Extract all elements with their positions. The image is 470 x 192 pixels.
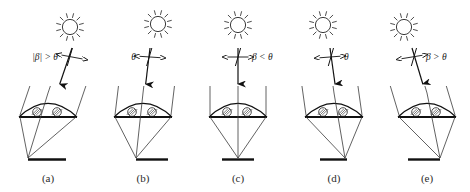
refracted-ray [20, 117, 28, 158]
sun-ray [144, 20, 149, 21]
refracted-ray [238, 117, 266, 158]
sun-ray [224, 27, 229, 28]
lens-e [398, 103, 456, 117]
sun-ray [66, 13, 67, 18]
sun-ray [234, 11, 235, 16]
refracted-ray [440, 117, 455, 158]
sun-ray [319, 11, 320, 16]
sun-ray [56, 29, 61, 30]
sun-ray [240, 34, 241, 39]
panel-caption-d: (d) [328, 172, 341, 185]
sun-ray [72, 13, 73, 18]
sun-ray [319, 34, 320, 39]
sun-ray [406, 13, 407, 18]
sun-ray [313, 15, 316, 18]
sun-icon-a [56, 13, 83, 40]
sun-ray [56, 23, 61, 24]
lens-b [114, 103, 172, 117]
sun-ray [390, 23, 395, 24]
refracted-ray [136, 117, 171, 158]
sun-ray [413, 29, 418, 30]
sun-icon-e [390, 13, 417, 40]
incident-beam-a: |β| > θ [32, 48, 82, 84]
panel-c: β < θ(c) [209, 11, 273, 185]
sun-ray [325, 34, 326, 39]
panel-caption-a: (a) [42, 172, 55, 185]
refracted-ray [28, 93, 48, 158]
refracted-ray [136, 93, 143, 158]
sun-ray [240, 11, 241, 16]
sun-ray [77, 17, 80, 20]
sun-disc [396, 19, 411, 34]
sun-ray [330, 32, 333, 35]
sun-ray [394, 17, 397, 20]
sun-ray [144, 26, 149, 27]
sun-ray [330, 15, 333, 18]
incident-beam-d: θ [320, 48, 350, 84]
sun-ray [224, 21, 229, 22]
lens-upper-arc [305, 103, 363, 117]
sun-ray [165, 14, 168, 17]
panel-group: |β| > θ(a)θ(b)β < θ(c)θ(d)β > θ(e) [19, 10, 456, 185]
incoming-ray [171, 86, 174, 115]
rays-a [20, 86, 86, 160]
rays-b [115, 86, 174, 160]
sun-ray [313, 32, 316, 35]
sun-ray [154, 10, 155, 15]
sun-ray [160, 33, 161, 38]
panel-e: β > θ(e) [390, 13, 456, 185]
incoming-ray [333, 86, 334, 93]
incoming-ray [358, 86, 362, 115]
sun-icon-c [224, 11, 251, 38]
lens-upper-arc [114, 103, 172, 117]
sun-ray [148, 31, 151, 34]
refracted-ray [115, 117, 136, 158]
lens-upper-arc [19, 103, 77, 117]
panel-a: |β| > θ(a) [19, 13, 86, 185]
lens-a [19, 103, 77, 117]
sun-ray [413, 23, 418, 24]
angle-tick [402, 55, 423, 58]
sun-ray [400, 13, 401, 18]
sun-ray [245, 32, 248, 35]
sun-disc [62, 19, 77, 34]
sun-ray [167, 20, 172, 21]
lens-d [305, 103, 363, 117]
angle-label-d: θ [344, 52, 349, 62]
beam-arrow [330, 48, 335, 84]
sun-ray [234, 34, 235, 39]
incoming-ray [20, 86, 30, 115]
sun-ray [332, 21, 337, 22]
sun-ray [60, 17, 63, 20]
sun-ray [406, 36, 407, 41]
incoming-ray [76, 86, 86, 115]
incident-beam-b: θ [131, 48, 160, 84]
refracted-ray [399, 117, 440, 158]
sun-ray [79, 29, 84, 30]
sun-ray [390, 29, 395, 30]
panel-caption-b: (b) [137, 172, 150, 185]
incident-beam-e: β > θ [402, 48, 447, 84]
panel-d: θ(d) [302, 11, 363, 185]
refracted-ray [345, 117, 362, 158]
sun-ray [411, 34, 414, 37]
sun-ray [400, 36, 401, 41]
refracted-ray [210, 117, 238, 158]
sun-ray [411, 17, 414, 20]
sun-ray [309, 21, 314, 22]
incoming-ray [143, 86, 144, 93]
solar-incidence-figure: |β| > θ(a)θ(b)β < θ(c)θ(d)β > θ(e) [0, 0, 470, 192]
incoming-ray [115, 86, 118, 115]
angle-tick [320, 56, 341, 58]
sun-ray [228, 15, 231, 18]
sun-ray [60, 34, 63, 37]
sun-icon-b [144, 10, 171, 37]
incident-beam-c: β < θ [228, 48, 273, 84]
sun-ray [245, 15, 248, 18]
sun-ray [332, 27, 337, 28]
panel-b: θ(b) [114, 10, 174, 185]
sun-ray [309, 27, 314, 28]
panel-caption-c: (c) [232, 172, 245, 185]
sun-ray [247, 21, 252, 22]
incoming-ray [390, 86, 399, 115]
